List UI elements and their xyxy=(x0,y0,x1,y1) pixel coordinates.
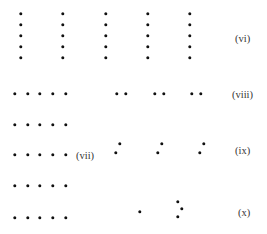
dot-viii-0 xyxy=(115,92,118,95)
label-vi: (vi) xyxy=(235,33,250,44)
dot-vi-1 xyxy=(19,23,22,26)
dot-ix-0 xyxy=(118,142,121,145)
dot-vii-13 xyxy=(51,153,54,156)
dot-vi-7 xyxy=(61,34,64,37)
dot-vi-5 xyxy=(61,12,64,15)
dot-vii-14 xyxy=(64,153,67,156)
dot-vi-17 xyxy=(146,34,149,37)
dot-x-3 xyxy=(176,215,179,218)
dot-ix-3 xyxy=(156,151,159,154)
label-viii: (viii) xyxy=(232,89,253,100)
dot-vii-0 xyxy=(13,92,16,95)
label-ix: (ix) xyxy=(235,145,250,156)
dot-vi-11 xyxy=(104,23,107,26)
dot-vii-23 xyxy=(51,216,54,219)
dot-vii-8 xyxy=(51,123,54,126)
dot-vii-18 xyxy=(51,184,54,187)
dot-vii-2 xyxy=(38,92,41,95)
dot-vii-5 xyxy=(13,123,16,126)
dot-vi-10 xyxy=(104,12,107,15)
dot-vi-18 xyxy=(146,45,149,48)
dot-vi-14 xyxy=(104,56,107,59)
dot-vii-4 xyxy=(64,92,67,95)
dot-vi-0 xyxy=(19,12,22,15)
dot-ix-1 xyxy=(114,151,117,154)
dot-vii-11 xyxy=(26,153,29,156)
dot-viii-1 xyxy=(124,92,127,95)
dot-x-0 xyxy=(138,210,141,213)
dot-vii-15 xyxy=(13,184,16,187)
dot-vi-22 xyxy=(188,34,191,37)
dot-viii-4 xyxy=(190,92,193,95)
dot-vi-2 xyxy=(19,34,22,37)
dot-ix-5 xyxy=(198,151,201,154)
dot-vii-7 xyxy=(38,123,41,126)
dot-vii-17 xyxy=(38,184,41,187)
dot-vii-10 xyxy=(13,153,16,156)
dot-vii-12 xyxy=(38,153,41,156)
dot-vii-21 xyxy=(26,216,29,219)
dot-vi-13 xyxy=(104,45,107,48)
dot-vi-4 xyxy=(19,56,22,59)
dot-vi-23 xyxy=(188,45,191,48)
label-x: (x) xyxy=(238,207,250,218)
dot-vi-24 xyxy=(188,56,191,59)
label-vii: (vii) xyxy=(76,150,94,161)
dot-vi-3 xyxy=(19,45,22,48)
dot-vii-6 xyxy=(26,123,29,126)
dot-vi-15 xyxy=(146,12,149,15)
dot-vii-19 xyxy=(64,184,67,187)
dot-vi-16 xyxy=(146,23,149,26)
dot-vi-6 xyxy=(61,23,64,26)
dot-vii-9 xyxy=(64,123,67,126)
dot-vi-12 xyxy=(104,34,107,37)
dot-x-1 xyxy=(176,200,179,203)
dot-pattern-figure: (vi) (vii) (viii) (ix) (x) xyxy=(0,0,267,234)
dot-vii-20 xyxy=(13,216,16,219)
dot-vi-21 xyxy=(188,23,191,26)
dot-viii-2 xyxy=(153,92,156,95)
dot-x-2 xyxy=(180,207,183,210)
dot-viii-3 xyxy=(162,92,165,95)
dot-viii-5 xyxy=(199,92,202,95)
dot-vi-19 xyxy=(146,56,149,59)
dot-vii-22 xyxy=(38,216,41,219)
dot-vii-16 xyxy=(26,184,29,187)
dot-vii-1 xyxy=(26,92,29,95)
dot-vi-9 xyxy=(61,56,64,59)
dot-vi-8 xyxy=(61,45,64,48)
dot-vii-3 xyxy=(51,92,54,95)
dot-ix-2 xyxy=(160,142,163,145)
dot-ix-4 xyxy=(202,142,205,145)
dot-vii-24 xyxy=(64,216,67,219)
dot-vi-20 xyxy=(188,12,191,15)
